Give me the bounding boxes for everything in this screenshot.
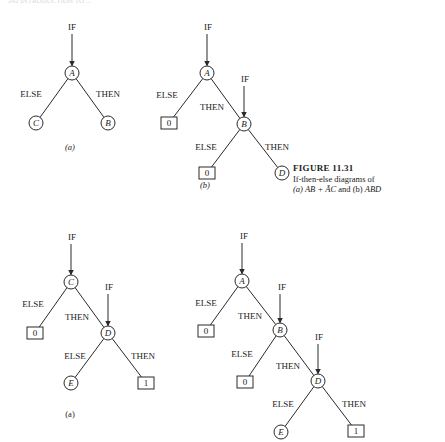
- constant-label: 0: [33, 328, 38, 338]
- variable-label: E: [67, 378, 74, 388]
- if-label: IF: [105, 282, 113, 292]
- edge-label-else: ELSE: [64, 351, 86, 361]
- if-label: IF: [315, 332, 323, 342]
- edge-else: [249, 336, 276, 376]
- variable-label: D: [278, 168, 286, 178]
- caption-part-b-label: and (b): [336, 184, 365, 194]
- if-label: IF: [241, 74, 249, 84]
- edge-label-else: ELSE: [195, 298, 217, 308]
- diagram-sublabel: (b): [200, 180, 210, 190]
- constant-label: 0: [243, 377, 248, 387]
- edge-else: [174, 79, 203, 117]
- if-label: IF: [68, 22, 76, 32]
- diagram-bottom-b: ELSETHENELSETHENELSETHENIFIFIFA0B0DE1: [195, 231, 366, 439]
- edge-label-then: THEN: [276, 361, 300, 371]
- edge-label-then: THEN: [238, 311, 262, 321]
- figure-description: If-then-else diagrams of: [293, 174, 381, 184]
- edge-label-then: THEN: [265, 142, 289, 152]
- constant-label: 0: [167, 118, 172, 128]
- variable-label: B: [241, 119, 247, 129]
- edge-label-then: THEN: [200, 102, 224, 112]
- edge-label-else: ELSE: [231, 349, 253, 359]
- caption-expr-a: AB + ĀC: [305, 184, 336, 194]
- edge-label-else: ELSE: [272, 399, 294, 409]
- diagram-sublabel: (a): [65, 409, 75, 419]
- figure-expressions: (a) AB + ĀC and (b) ABD: [293, 184, 381, 194]
- edge-label-else: ELSE: [195, 142, 217, 152]
- edge-label-then: THEN: [342, 399, 366, 409]
- caption-part-a-label: (a): [293, 184, 305, 194]
- if-label: IF: [68, 232, 76, 242]
- if-label: IF: [278, 282, 286, 292]
- variable-label: B: [277, 325, 283, 335]
- diagram-bottom-a: ELSETHENELSETHENIFIFC0DE1(a): [22, 232, 155, 419]
- variable-label: A: [238, 276, 245, 286]
- constant-label: 1: [144, 378, 149, 388]
- if-then-else-diagrams: ELSETHENIFACB(a)ELSETHENELSETHENIFIFA0B0…: [0, 0, 445, 442]
- edge-else: [40, 79, 68, 118]
- edge-label-else: ELSE: [22, 299, 44, 309]
- caption-expr-b: ABD: [365, 184, 382, 194]
- variable-label: C: [68, 277, 75, 287]
- edge-label-then: THEN: [131, 351, 155, 361]
- variable-label: C: [33, 118, 40, 128]
- edge-then: [211, 79, 240, 119]
- if-label: IF: [204, 22, 212, 32]
- constant-label: 1: [354, 426, 359, 436]
- edge-label-else: ELSE: [20, 89, 42, 99]
- constant-label: 0: [204, 326, 209, 336]
- if-label: IF: [240, 231, 248, 241]
- variable-label: B: [105, 118, 111, 128]
- constant-label: 0: [205, 168, 210, 178]
- variable-label: E: [277, 427, 284, 437]
- figure-title: FIGURE 11.31: [293, 163, 381, 174]
- variable-label: A: [203, 68, 210, 78]
- edge-label-then: THEN: [65, 312, 89, 322]
- variable-label: A: [68, 68, 75, 78]
- variable-label: D: [104, 328, 112, 338]
- diagram-sublabel: (a): [65, 142, 75, 152]
- edge-label-else: ELSE: [156, 90, 178, 100]
- diagram-top-a: ELSETHENIFACB(a): [20, 22, 120, 152]
- diagram-top-b: ELSETHENELSETHENIFIFA0B0D(b): [156, 22, 289, 190]
- edge-label-then: THEN: [96, 89, 120, 99]
- variable-label: D: [314, 376, 322, 386]
- figure-caption: FIGURE 11.31 If-then-else diagrams of (a…: [293, 163, 381, 194]
